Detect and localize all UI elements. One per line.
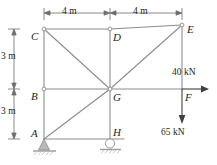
- dimension-label-span-2: 4 m: [133, 7, 148, 17]
- joint-label-G: G: [113, 92, 121, 103]
- dimension-label-height-1: 3 m: [1, 52, 16, 62]
- joint-label-C: C: [31, 31, 38, 42]
- diagonal-C-G: [44, 29, 110, 89]
- joint-label-B: B: [31, 91, 38, 102]
- joint-label-H: H: [113, 127, 121, 138]
- load-label-65kN: 65 kN: [161, 128, 185, 138]
- joint-B: [42, 87, 46, 91]
- joint-D: [108, 27, 112, 31]
- joint-E: [180, 23, 184, 27]
- dim-arrow-h2-top: [12, 89, 16, 95]
- pin-support-A: [33, 139, 56, 155]
- dimension-label-span-1: 4 m: [62, 7, 77, 17]
- truss-frame-diagram: C D E B G H A F 4 m 4 m 3 m 3 m 40 kN 65…: [0, 0, 217, 165]
- loads-group: [179, 86, 209, 124]
- load-label-40kN: 40 kN: [172, 68, 196, 78]
- roller-support-H: [100, 139, 121, 154]
- joint-G: [108, 87, 112, 91]
- load-arrow-65kN-head: [179, 115, 186, 124]
- dimension-label-height-2: 3 m: [1, 107, 16, 117]
- member-D-E: [110, 25, 182, 29]
- diagonal-A-G: [44, 89, 110, 139]
- dim-arrow-h1-top: [12, 29, 16, 35]
- pin-support-triangle: [39, 139, 50, 150]
- joint-label-F: F: [185, 92, 192, 103]
- joint-C: [42, 27, 46, 31]
- pin-support-hatching: [34, 152, 53, 156]
- roller-support-wheel: [105, 139, 114, 148]
- joint-label-D: D: [113, 32, 121, 43]
- dim-arrow-h2-bottom: [12, 133, 16, 139]
- load-arrow-40kN-head: [201, 86, 209, 93]
- joint-label-E: E: [187, 24, 194, 35]
- joint-label-A: A: [31, 128, 38, 139]
- dim-arrow-span2-left: [110, 11, 116, 15]
- vertical-dimensions-group: [8, 29, 20, 139]
- dim-arrow-span2-right: [176, 11, 182, 15]
- dim-arrow-span1-left: [44, 11, 50, 15]
- roller-support-hatching: [101, 150, 120, 154]
- diagram-canvas: [0, 0, 217, 165]
